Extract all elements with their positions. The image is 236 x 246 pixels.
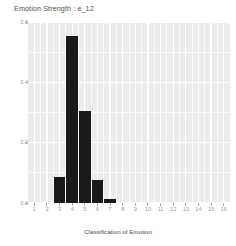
bar	[66, 36, 78, 203]
y-axis-tick-mark	[25, 142, 28, 143]
x-axis-tick-label: 15	[208, 206, 214, 212]
x-axis-tick-label: 4	[71, 206, 74, 212]
x-axis-tick-label: 1	[33, 206, 36, 212]
x-axis-tick-label: 7	[109, 206, 112, 212]
bar	[92, 180, 104, 203]
x-axis-tick-label: 5	[83, 206, 86, 212]
y-axis-tick-mark	[25, 82, 28, 83]
x-axis-tick-label: 6	[96, 206, 99, 212]
x-axis-tick-label: 9	[134, 206, 137, 212]
x-axis-tick-mark	[122, 203, 123, 206]
x-axis-tick-label: 12	[170, 206, 176, 212]
x-axis-tick-mark	[211, 203, 212, 206]
x-axis-title: Classification of Emotion	[0, 228, 236, 235]
chart-root: Emotion Strength : e_12 0.00.20.40.6 123…	[0, 0, 236, 246]
x-axis-tick-mark	[198, 203, 199, 206]
x-axis-tick-label: 14	[195, 206, 201, 212]
x-axis-tick-label: 11	[158, 206, 164, 212]
x-axis-tick-mark	[160, 203, 161, 206]
x-axis-tick-label: 16	[221, 206, 227, 212]
x-axis-tick-mark	[46, 203, 47, 206]
y-axis-tick-mark	[25, 22, 28, 23]
x-axis-tick-mark	[147, 203, 148, 206]
x-axis-tick-mark	[72, 203, 73, 206]
x-axis-tick-mark	[97, 203, 98, 206]
x-axis-tick-mark	[173, 203, 174, 206]
x-axis-tick-label: 10	[145, 206, 151, 212]
x-axis-tick-mark	[185, 203, 186, 206]
x-axis-tick-mark	[59, 203, 60, 206]
x-axis-tick-label: 8	[121, 206, 124, 212]
bar-series	[28, 22, 230, 203]
x-axis-tick-mark	[84, 203, 85, 206]
x-axis-tick-label: 3	[58, 206, 61, 212]
x-axis-tick-mark	[34, 203, 35, 206]
bar	[54, 177, 66, 203]
x-axis-tick-mark	[223, 203, 224, 206]
chart-title: Emotion Strength : e_12	[14, 4, 94, 13]
x-axis-tick-label: 2	[45, 206, 48, 212]
x-axis-tick-label: 13	[183, 206, 189, 212]
bar	[79, 111, 91, 203]
x-axis-tick-mark	[135, 203, 136, 206]
plot-panel	[28, 22, 230, 203]
y-axis-tick-mark	[25, 203, 28, 204]
x-axis-tick-mark	[110, 203, 111, 206]
